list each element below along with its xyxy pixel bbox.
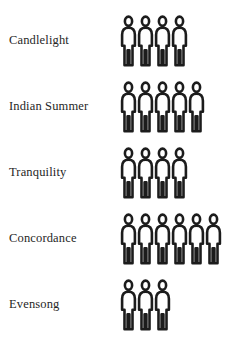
chart-row: Concordance (0, 206, 232, 272)
row-icon-group (119, 147, 232, 199)
chart-row: Evensong (0, 272, 232, 338)
row-icon-group (119, 15, 232, 67)
chart-row: Indian Summer (0, 74, 232, 140)
chart-row: Tranquility (0, 140, 232, 206)
chart-row: Candlelight (0, 8, 232, 74)
row-icon-group (119, 81, 232, 133)
row-label: Concordance (0, 232, 120, 246)
row-label: Evensong (0, 298, 120, 312)
row-icon-group (119, 213, 232, 265)
person-icon (153, 279, 172, 331)
person-icon (204, 213, 223, 265)
person-icon (170, 147, 189, 199)
row-label: Indian Summer (0, 100, 120, 114)
person-icon (187, 81, 206, 133)
row-label: Tranquility (0, 166, 120, 180)
row-label: Candlelight (0, 34, 120, 48)
row-icon-group (119, 279, 232, 331)
person-icon (170, 15, 189, 67)
pictograph-chart: CandlelightIndian SummerTranquilityConco… (0, 0, 232, 338)
